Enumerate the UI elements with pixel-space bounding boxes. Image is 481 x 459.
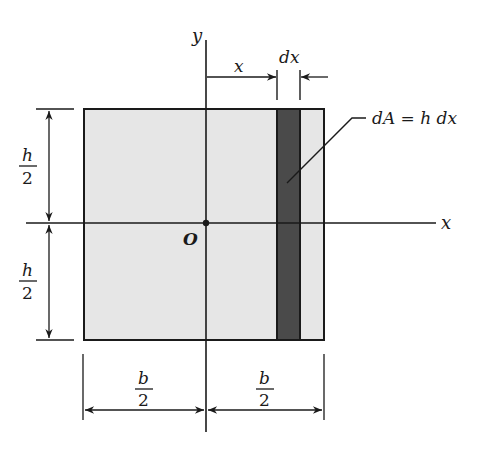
- svg-text:2: 2: [22, 168, 33, 188]
- svg-text:b: b: [138, 368, 149, 388]
- y-axis-label: y: [191, 25, 203, 46]
- svg-text:h: h: [22, 145, 33, 165]
- svg-text:h: h: [22, 260, 33, 280]
- dx-label: dx: [279, 47, 300, 67]
- lower-half-height-fraction: h 2: [19, 260, 37, 303]
- origin-label: O: [183, 229, 198, 249]
- x-distance-label: x: [234, 56, 244, 76]
- x-axis-label: x: [441, 212, 451, 233]
- svg-text:2: 2: [138, 390, 149, 410]
- strip-area-label: dA = h dx: [372, 108, 457, 128]
- upper-half-height-fraction: h 2: [19, 145, 37, 188]
- section-diagram: y x O x dx dA = h dx h 2 h 2 b 2 b 2: [0, 0, 481, 459]
- svg-text:2: 2: [22, 283, 33, 303]
- svg-text:b: b: [259, 368, 270, 388]
- origin-point: [203, 220, 209, 226]
- left-half-width-fraction: b 2: [135, 368, 153, 410]
- right-half-width-fraction: b 2: [256, 368, 274, 410]
- strip-element: [277, 109, 300, 340]
- svg-text:2: 2: [259, 390, 270, 410]
